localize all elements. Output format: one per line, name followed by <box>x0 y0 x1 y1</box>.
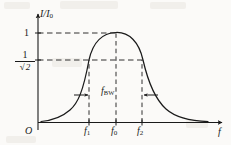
origin-label: O <box>25 126 32 136</box>
plot-canvas <box>0 0 231 145</box>
resonance-curve <box>41 32 208 121</box>
x-tick-label-f2-subscript: 2 <box>140 129 144 137</box>
x-tick-label-f1-subscript: 1 <box>87 129 91 137</box>
radical-glyph: √ <box>20 62 25 72</box>
bandwidth-label: fBW <box>101 86 115 97</box>
y-tick-label-half-power: 1 √2 <box>13 50 37 72</box>
radical-operand: 2 <box>25 61 32 72</box>
resonance-curve-figure: I/I0 1 1 √2 O f f1 f0 f2 fBW <box>0 0 231 145</box>
fraction-denominator: √2 <box>13 62 37 72</box>
x-tick-label-f1: f1 <box>84 126 90 137</box>
x-tick-label-f0: f0 <box>111 126 117 137</box>
y-axis-label-subscript: 0 <box>49 12 53 20</box>
x-tick-label-f0-subscript: 0 <box>114 129 118 137</box>
y-axis-label: I/I0 <box>40 9 53 20</box>
x-axis-label: f <box>218 127 221 137</box>
x-tick-label-f2: f2 <box>137 126 143 137</box>
y-tick-label-unity: 1 <box>24 28 29 38</box>
fraction-numerator: 1 <box>13 50 37 61</box>
radical-sign: √2 <box>19 62 31 72</box>
bandwidth-label-subscript: BW <box>104 89 115 96</box>
